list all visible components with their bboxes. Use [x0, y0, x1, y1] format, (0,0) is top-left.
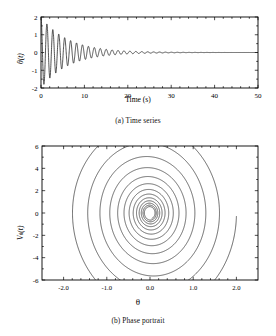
- panel-time-series: 01020304050 210-1-2 θ(t) Time (s) (a) Ti…: [0, 0, 276, 110]
- y-tick-labels-b: 6420-2-4-6: [33, 143, 39, 285]
- y-axis-label-b: Vθ(t): [16, 226, 25, 240]
- tick-label: 1: [34, 31, 38, 39]
- caption-b: (b) Phase portrait: [0, 316, 276, 325]
- caption-a-text: (a) Time series: [115, 116, 160, 125]
- x-axis-label-b-text: θ: [136, 297, 140, 307]
- tick-label: 0.0: [146, 284, 155, 291]
- tick-label: -2: [32, 85, 38, 93]
- y-axis-label-b-symbol: V: [16, 235, 25, 240]
- tick-label: -1.0: [102, 284, 113, 291]
- caption-b-text: (b) Phase portrait: [111, 316, 164, 325]
- x-tick-labels-b: -2.0-1.00.01.02.0: [58, 284, 241, 291]
- panel-phase-portrait: -2.0-1.00.01.02.0 6420-2-4-6 Vθ(t) θ (b)…: [0, 140, 276, 336]
- plot-frame-b: [42, 146, 258, 280]
- tick-label: -2.0: [58, 284, 69, 291]
- tick-label: 2.0: [232, 284, 241, 291]
- y-axis-label-a: θ(t): [16, 53, 25, 64]
- tick-label: 2: [34, 14, 38, 22]
- tick-label: -2: [33, 232, 39, 240]
- x-axis-label-a-text: Time (s): [125, 95, 151, 104]
- tick-label: 2: [35, 187, 39, 195]
- tick-label: -4: [33, 254, 39, 262]
- tick-label: 6: [35, 143, 39, 151]
- tick-label: 0: [35, 210, 39, 218]
- caption-a: (a) Time series: [0, 116, 276, 125]
- tick-label: 4: [35, 165, 39, 173]
- figure-root: 01020304050 210-1-2 θ(t) Time (s) (a) Ti…: [0, 0, 276, 336]
- tick-label: 0: [34, 49, 38, 57]
- y-tick-labels-a: 210-1-2: [32, 14, 38, 93]
- x-axis-label-a: Time (s): [0, 95, 276, 104]
- y-axis-label-b-subscript: θ: [18, 233, 24, 236]
- tick-label: 1.0: [189, 284, 198, 291]
- tick-label: -6: [33, 277, 39, 285]
- x-axis-label-b: θ: [0, 297, 276, 307]
- phase-portrait-plot: -2.0-1.00.01.02.0 6420-2-4-6: [0, 140, 276, 300]
- time-series-plot: 01020304050 210-1-2: [0, 0, 276, 110]
- tick-label: -1: [32, 67, 38, 75]
- y-axis-label-a-text: θ(t): [16, 53, 25, 64]
- y-axis-label-b-arg: (t): [16, 226, 25, 233]
